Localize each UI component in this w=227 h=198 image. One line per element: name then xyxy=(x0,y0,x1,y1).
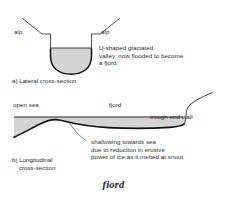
label-alp-right: alp xyxy=(101,28,109,36)
label-alp-left: alp xyxy=(14,28,22,36)
label-trough-end-wall: trough end wall xyxy=(150,113,193,121)
longitudinal-annotation-text: shallowing towards sea due to reduction … xyxy=(91,138,183,161)
label-open-sea: open sea xyxy=(13,101,39,109)
lateral-annotation-text: U-shaped glaciated valley, now flooded t… xyxy=(99,44,183,67)
label-fjord: fjord xyxy=(109,101,121,109)
alp-slope-left xyxy=(23,19,51,35)
longitudinal-panel-caption: b) Longitudinal cross-section xyxy=(12,156,55,172)
fiord-diagram-figure: alp alp U-shaped glaciated valley, now f… xyxy=(0,0,227,198)
figure-title: fiord xyxy=(0,179,227,190)
lateral-panel-caption: a) Lateral cross-section xyxy=(12,77,76,85)
